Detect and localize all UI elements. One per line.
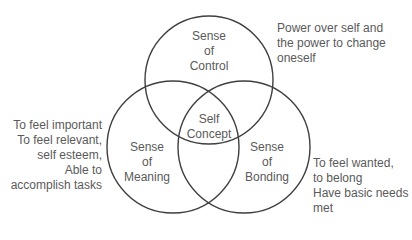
annotation-control: Power over self and the power to change … <box>277 21 386 66</box>
annotation-line: To feel wanted, <box>313 156 408 171</box>
label-line: Sense <box>245 140 289 155</box>
annotation-line: the power to change <box>277 36 386 51</box>
annotation-line: To feel important <box>11 118 102 133</box>
annotation-line: self esteem, <box>11 148 102 163</box>
annotation-line: Have basic needs <box>313 186 408 201</box>
label-line: Self <box>187 112 232 127</box>
label-sense-of-bonding: Sense of Bonding <box>245 140 289 185</box>
label-line: Concept <box>187 127 232 142</box>
annotation-bonding: To feel wanted, to belong Have basic nee… <box>313 156 408 216</box>
label-line: of <box>190 44 229 59</box>
label-sense-of-control: Sense of Control <box>190 29 229 74</box>
label-line: Bonding <box>245 170 289 185</box>
label-line: of <box>245 155 289 170</box>
annotation-meaning: To feel important To feel relevant, self… <box>11 118 102 193</box>
label-self-concept: Self Concept <box>187 112 232 142</box>
annotation-line: Able to <box>11 163 102 178</box>
annotation-line: to belong <box>313 171 408 186</box>
annotation-line: Power over self and <box>277 21 386 36</box>
label-line: of <box>124 155 170 170</box>
label-line: Sense <box>124 140 170 155</box>
label-sense-of-meaning: Sense of Meaning <box>124 140 170 185</box>
label-line: Sense <box>190 29 229 44</box>
label-line: Meaning <box>124 170 170 185</box>
annotation-line: oneself <box>277 51 386 66</box>
annotation-line: accomplish tasks <box>11 178 102 193</box>
annotation-line: met <box>313 201 408 216</box>
label-line: Control <box>190 59 229 74</box>
annotation-line: To feel relevant, <box>11 133 102 148</box>
